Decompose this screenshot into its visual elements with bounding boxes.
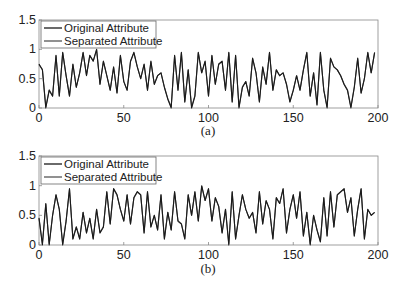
y-tick-label: 1 <box>29 179 36 193</box>
y-tick-label: 1.5 <box>19 149 36 163</box>
series-line-original-attribute <box>39 186 375 245</box>
chart-panel-b: 00.511.5 050100150200 Original Attribute… <box>19 149 389 276</box>
x-tick-label: 150 <box>283 248 304 262</box>
y-axis-ticks: 00.511.5 <box>19 13 42 115</box>
series-lines <box>39 49 375 108</box>
series-lines <box>39 186 375 245</box>
legend: Original Attribute Separated Attribute <box>41 157 162 184</box>
legend-label-original: Original Attribute <box>64 22 149 34</box>
x-tick-label: 200 <box>368 111 389 125</box>
x-tick-label: 150 <box>283 111 304 125</box>
legend-label-separated: Separated Attribute <box>64 35 162 47</box>
legend-label-separated: Separated Attribute <box>64 171 162 183</box>
y-tick-label: 0.5 <box>19 208 36 222</box>
y-tick-label: 1 <box>29 42 36 56</box>
x-tick-label: 50 <box>117 111 131 125</box>
chart-panel-a: 00.511.5 050100150200 Original Attribute… <box>19 13 389 138</box>
x-tick-label: 0 <box>36 111 43 125</box>
caption-b: (b) <box>200 261 215 276</box>
y-axis-ticks: 00.511.5 <box>19 149 42 252</box>
x-tick-label: 50 <box>117 248 131 262</box>
y-tick-label: 0.5 <box>19 72 36 86</box>
x-tick-label: 0 <box>36 248 43 262</box>
y-tick-label: 1.5 <box>19 13 36 27</box>
legend-label-original: Original Attribute <box>64 158 149 170</box>
series-line-original-attribute <box>39 49 375 108</box>
x-tick-label: 200 <box>368 248 389 262</box>
legend: Original Attribute Separated Attribute <box>41 21 162 48</box>
caption-a: (a) <box>201 123 215 138</box>
figure: 00.511.5 050100150200 Original Attribute… <box>0 0 407 286</box>
x-tick-label: 100 <box>198 248 219 262</box>
